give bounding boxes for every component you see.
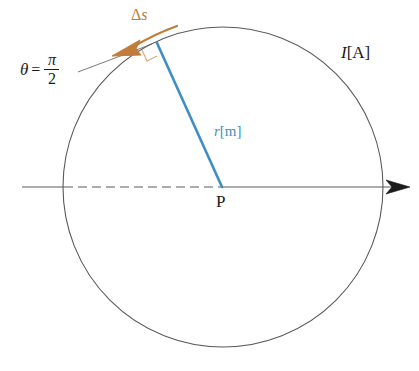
theta-label: θ = π 2 [20, 52, 59, 88]
right-angle-marker [142, 50, 157, 61]
delta-s-arrow-shaft [133, 26, 177, 47]
current-label: I[A] [341, 44, 370, 61]
current-unit: [A] [347, 43, 371, 62]
theta-leader-line [78, 44, 152, 72]
delta-symbol: Δ [131, 6, 141, 23]
theta-equals-sign: = [31, 62, 40, 78]
radius-unit: [m] [220, 123, 242, 139]
delta-s-variable: s [141, 6, 147, 23]
delta-s-arrowhead [112, 40, 141, 56]
physics-figure: θ = π 2 Δs I[A] r[m] P [0, 0, 419, 371]
theta-symbol: θ [20, 61, 28, 78]
point-p-label: P [216, 193, 225, 210]
delta-s-label: Δs [131, 7, 148, 23]
radius-line [157, 43, 222, 187]
theta-fraction: π 2 [44, 52, 59, 88]
theta-denominator: 2 [46, 70, 58, 87]
theta-numerator: π [46, 52, 58, 69]
radius-label: r[m] [214, 124, 242, 139]
